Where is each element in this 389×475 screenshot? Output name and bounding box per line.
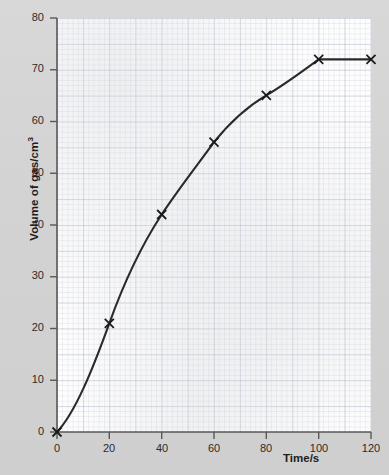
data-point-marker-20 [105, 319, 114, 328]
data-point-marker-60 [210, 138, 219, 147]
data-point-marker-0 [53, 428, 62, 437]
data-series-layer [0, 0, 389, 475]
data-point-marker-80 [262, 91, 271, 100]
gas-volume-line-chart: 80 70 60 50 40 30 20 10 0 0 20 40 60 80 … [0, 0, 389, 475]
gas-volume-curve [57, 59, 371, 432]
data-point-marker-40 [157, 210, 166, 219]
